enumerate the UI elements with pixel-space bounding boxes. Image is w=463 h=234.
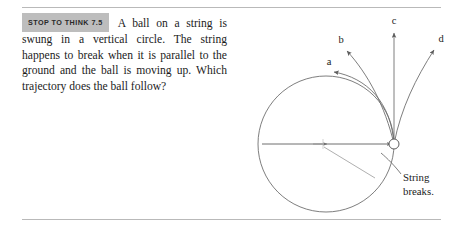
bottom-divider (22, 219, 441, 220)
question-block: STOP TO THINK 7.5A ball on a string is s… (22, 13, 227, 94)
trajectory-d (394, 50, 434, 144)
ball (389, 139, 399, 149)
trajectory-label-c: c (392, 15, 397, 26)
trajectory-a (334, 72, 394, 144)
broken-string (324, 147, 375, 178)
textbook-figure-page: STOP TO THINK 7.5A ball on a string is s… (0, 0, 463, 234)
trajectory-label-d: d (438, 33, 444, 44)
string-breaks-label-line2: breaks. (403, 185, 434, 197)
trajectory-label-a: a (327, 56, 332, 67)
trajectory-label-b: b (338, 34, 343, 45)
trajectory-diagram: a b c d String breaks. (215, 6, 455, 214)
string-breaks-label-line1: String (403, 171, 430, 183)
trajectory-b (347, 51, 394, 144)
stop-to-think-badge: STOP TO THINK 7.5 (22, 13, 109, 32)
